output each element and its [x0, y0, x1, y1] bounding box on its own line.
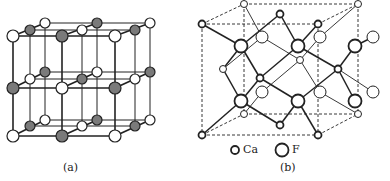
crystal-figure	[0, 0, 390, 181]
caption-b: (b)	[280, 161, 296, 174]
panel-b-cell	[202, 4, 373, 135]
legend-f-label: F	[292, 143, 300, 156]
legend-f-symbol	[276, 144, 289, 157]
legend-ca-symbol	[231, 146, 239, 154]
caption-a: (a)	[63, 161, 78, 174]
legend-ca-label: Ca	[243, 143, 258, 156]
